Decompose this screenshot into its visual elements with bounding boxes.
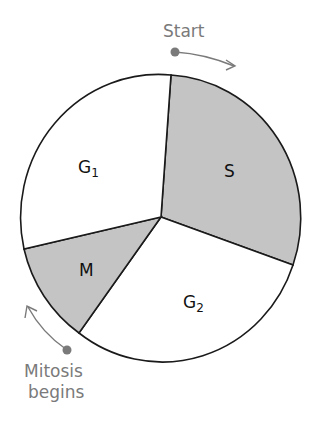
start-arrow-icon: [175, 52, 234, 66]
mitosis-label-line2: begins: [28, 382, 85, 402]
start-label: Start: [163, 21, 205, 41]
label-s: S: [224, 161, 235, 181]
cell-cycle-diagram: G1 S G2 M Start Mitosis begins: [0, 0, 323, 429]
mitosis-label-line1: Mitosis: [24, 361, 83, 381]
label-m: M: [79, 260, 94, 280]
